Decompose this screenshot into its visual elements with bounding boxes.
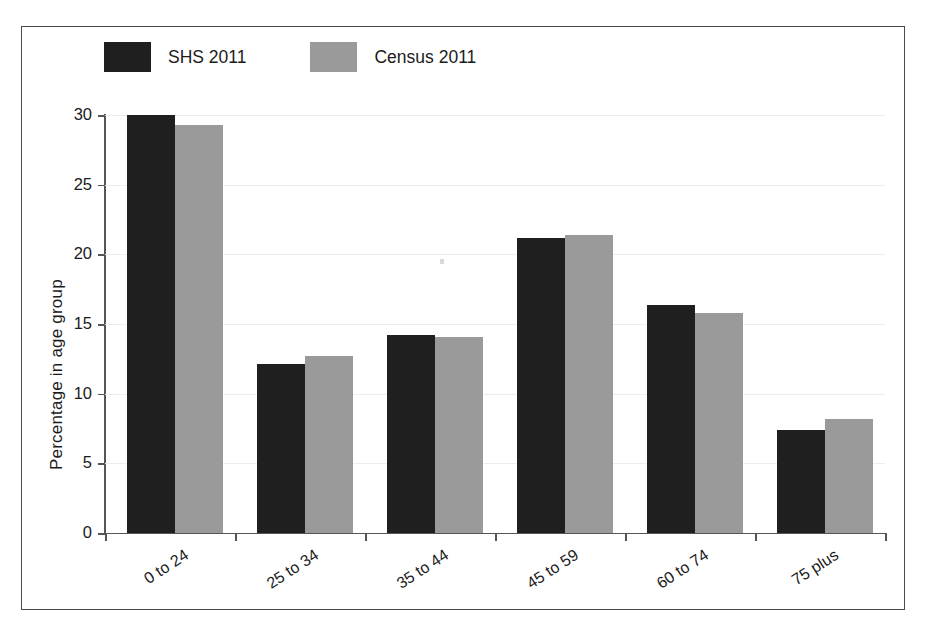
legend-label-census-2011: Census 2011 [374, 47, 476, 68]
y-tick-mark [98, 533, 105, 535]
y-tick-mark [98, 185, 105, 187]
x-tick-mark [365, 533, 367, 541]
bar-25-to-34-Census-2011 [305, 356, 353, 533]
bar-75-plus-Census-2011 [825, 419, 873, 533]
y-tick-mark [98, 115, 105, 117]
y-tick-label: 20 [58, 244, 92, 263]
legend-entry-census-2011: Census 2011 [310, 42, 476, 72]
y-tick-mark [98, 463, 105, 465]
bar-35-to-44-SHS-2011 [387, 335, 435, 533]
legend-swatch-icon-census-2011 [310, 42, 357, 72]
y-tick-label: 15 [58, 314, 92, 333]
chart-figure: SHS 2011 Census 2011 Percentage in age g… [0, 0, 931, 637]
plot-area [105, 115, 885, 533]
x-tick-mark [235, 533, 237, 541]
bar-0-to-24-Census-2011 [175, 125, 223, 533]
y-tick-label: 0 [58, 523, 92, 542]
x-tick-mark [105, 533, 107, 541]
bar-60-to-74-Census-2011 [695, 313, 743, 533]
gridline [105, 115, 885, 116]
bar-0-to-24-SHS-2011 [127, 115, 175, 533]
legend-entry-shs-2011: SHS 2011 [104, 42, 246, 72]
legend-label-shs-2011: SHS 2011 [168, 47, 246, 68]
chart-legend: SHS 2011 Census 2011 [104, 40, 476, 74]
y-tick-mark [98, 254, 105, 256]
x-tick-mark [755, 533, 757, 541]
bar-45-to-59-SHS-2011 [517, 238, 565, 533]
y-tick-label: 25 [58, 175, 92, 194]
y-tick-mark [98, 324, 105, 326]
x-tick-mark [885, 533, 887, 541]
scan-artifact [440, 259, 444, 264]
bar-35-to-44-Census-2011 [435, 337, 483, 533]
y-tick-label: 30 [58, 105, 92, 124]
bar-25-to-34-SHS-2011 [257, 364, 305, 533]
y-tick-label: 10 [58, 384, 92, 403]
y-tick-mark [98, 394, 105, 396]
legend-swatch-icon-shs-2011 [104, 42, 151, 72]
bar-60-to-74-SHS-2011 [647, 305, 695, 534]
y-tick-label: 5 [58, 453, 92, 472]
bar-45-to-59-Census-2011 [565, 235, 613, 533]
bar-75-plus-SHS-2011 [777, 430, 825, 533]
x-tick-mark [495, 533, 497, 541]
x-tick-mark [625, 533, 627, 541]
